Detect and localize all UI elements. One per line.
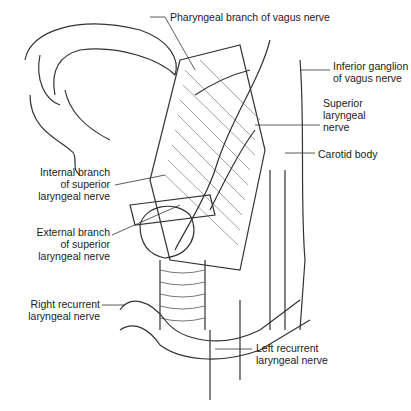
label-right-recurrent: Right recurrent laryngeal nerve <box>15 298 100 322</box>
label-inferior-ganglion: Inferior ganglion of vagus nerve <box>333 60 408 84</box>
label-external-branch: External branch of superior laryngeal ne… <box>25 226 110 262</box>
label-line: of superior <box>25 238 110 250</box>
label-line: External branch <box>25 226 110 238</box>
label-line: Inferior ganglion <box>333 60 408 72</box>
label-line: of superior <box>25 178 110 190</box>
label-carotid-body: Carotid body <box>318 148 378 160</box>
label-line: laryngeal <box>323 109 366 121</box>
label-line: Right recurrent <box>15 298 100 310</box>
label-superior-laryngeal: Superior laryngeal nerve <box>323 97 366 133</box>
label-line: nerve <box>323 121 366 133</box>
label-internal-branch: Internal branch of superior laryngeal ne… <box>25 166 110 202</box>
label-line: laryngeal nerve <box>256 354 328 366</box>
label-line: Internal branch <box>25 166 110 178</box>
label-line: of vagus nerve <box>333 72 408 84</box>
label-line: Superior <box>323 97 366 109</box>
label-left-recurrent: Left recurrent laryngeal nerve <box>256 342 328 366</box>
label-line: laryngeal nerve <box>25 250 110 262</box>
label-pharyngeal-branch: Pharyngeal branch of vagus nerve <box>170 11 330 23</box>
label-line: Left recurrent <box>256 342 328 354</box>
label-line: laryngeal nerve <box>15 310 100 322</box>
label-line: laryngeal nerve <box>25 190 110 202</box>
